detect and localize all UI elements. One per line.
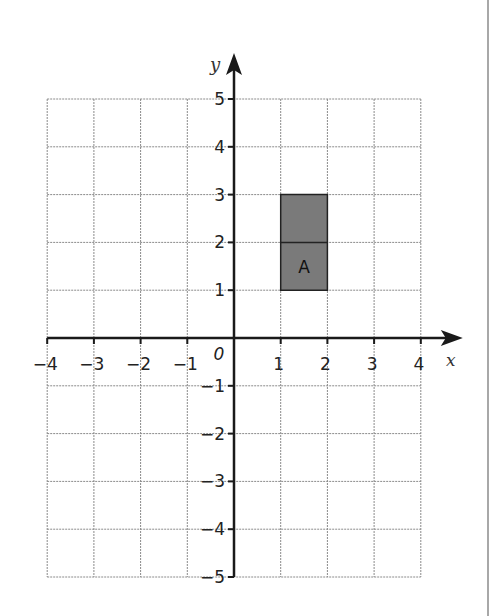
x-tick-label: 2 [320, 354, 331, 374]
coordinate-plane: A−4−3−2−1123454321−1−2−3−4−50xy [0, 0, 499, 616]
x-tick-label: −1 [173, 354, 198, 374]
y-tick-label: 5 [214, 89, 225, 109]
x-tick-label: 4 [413, 354, 424, 374]
coordinate-grid-figure: A−4−3−2−1123454321−1−2−3−4−50xy [0, 0, 499, 616]
x-tick-label: 3 [367, 354, 378, 374]
shape-label: A [298, 257, 310, 277]
y-axis-label: y [209, 54, 221, 75]
y-tick-label: −1 [200, 376, 225, 396]
y-tick-label: −2 [200, 424, 225, 444]
page-border-line [487, 0, 489, 616]
x-tick-label: 1 [273, 354, 284, 374]
x-axis-label: x [446, 350, 456, 370]
y-tick-label: −3 [200, 471, 225, 491]
y-tick-label: −5 [200, 567, 225, 587]
origin-label: 0 [214, 344, 225, 364]
y-tick-label: −4 [200, 519, 225, 539]
x-tick-label: −3 [79, 354, 104, 374]
x-tick-label: −2 [126, 354, 151, 374]
y-tick-label: 4 [214, 137, 225, 157]
y-tick-label: 2 [214, 232, 225, 252]
y-tick-label: 3 [214, 185, 225, 205]
y-tick-label: 1 [214, 280, 225, 300]
x-tick-label: −4 [33, 354, 58, 374]
